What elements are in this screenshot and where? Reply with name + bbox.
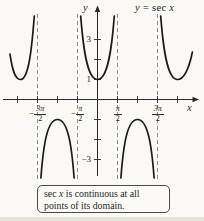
caption-sec: sec <box>44 188 59 199</box>
x-tick-label-neg-pi-2: − π2 <box>66 105 90 124</box>
minus-sign: − <box>29 109 34 117</box>
fraction-denominator: 2 <box>156 115 160 124</box>
fraction-denominator: 2 <box>116 115 120 124</box>
y-axis-label: y <box>83 2 88 13</box>
equation-title: y = sec x <box>135 2 174 13</box>
x-tick-label-pi-2: π2 <box>106 105 130 124</box>
scan-shadow-edge <box>0 217 204 221</box>
y-axis-arrow-icon <box>95 6 100 13</box>
secant-branch-left-down <box>41 120 74 179</box>
y-tick-label-3: 3 <box>76 34 91 45</box>
caption-box: sec x is continuous at all points of its… <box>37 185 170 213</box>
x-axis-arrow-icon <box>193 97 200 102</box>
title-equals: = <box>140 2 152 13</box>
x-tick-label-neg-3pi-2: − 3π2 <box>26 105 50 124</box>
title-sec: sec <box>152 2 169 13</box>
secant-branch-right-down <box>121 120 154 179</box>
title-x: x <box>169 2 174 13</box>
x-tick-label-3pi-2: 3π2 <box>146 105 170 124</box>
minus-sign: − <box>71 109 76 117</box>
fraction-denominator: 2 <box>78 115 82 124</box>
secant-branch-right-partial <box>161 16 193 80</box>
y-tick-label-1: 1 <box>76 74 91 85</box>
secant-figure: y = sec x y x 3 1 −3 − 3π2 − π2 π2 3π2 s… <box>0 0 204 221</box>
x-axis-label: x <box>187 102 192 113</box>
y-tick-label-neg3: −3 <box>76 154 91 165</box>
fraction-denominator: 2 <box>38 115 42 124</box>
secant-branch-left-partial <box>10 16 34 80</box>
